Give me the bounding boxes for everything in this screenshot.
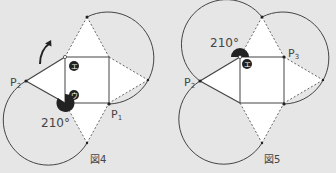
diagram-canvas: エ ウ P2 P1 210° 図4 bbox=[0, 0, 336, 173]
angle-label: 210° bbox=[210, 36, 239, 50]
figure-4: エ ウ P2 P1 210° 図4 bbox=[3, 12, 154, 165]
svg-text:エ: エ bbox=[71, 63, 78, 71]
label-p1: P1 bbox=[111, 108, 122, 122]
svg-text:ウ: ウ bbox=[71, 92, 78, 100]
label-p2: P2 bbox=[10, 76, 21, 90]
figure-5: エ P2 P3 210° 図5 bbox=[179, 0, 329, 165]
right-triangle bbox=[109, 57, 148, 103]
figure-caption: 図4 bbox=[90, 154, 106, 165]
top-triangle bbox=[65, 17, 109, 57]
left-triangle bbox=[26, 57, 65, 103]
figure-caption: 図5 bbox=[264, 154, 280, 165]
rotation-arrow-icon bbox=[40, 43, 50, 64]
svg-text:エ: エ bbox=[244, 61, 251, 69]
angle-label: 210° bbox=[41, 116, 70, 130]
label-p2: P2 bbox=[184, 76, 195, 90]
label-p3: P3 bbox=[288, 47, 299, 61]
